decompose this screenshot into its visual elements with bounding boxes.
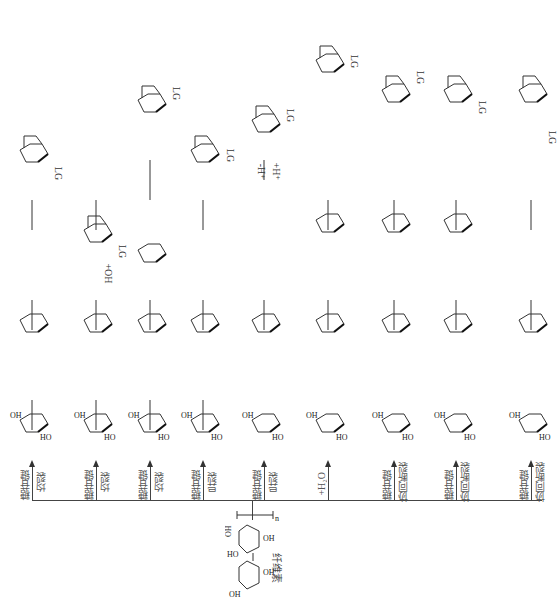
svg-text:HO: HO — [539, 433, 551, 442]
branch-2-step-label: +OH — [103, 263, 114, 283]
branch-2-arrow — [93, 460, 99, 467]
svg-text:OH: OH — [181, 411, 193, 420]
branch-4-arrow — [200, 460, 206, 467]
svg-text:OH: OH — [509, 411, 521, 420]
branch-4-label-top: 糖苷键 — [191, 470, 202, 500]
branch-2-line — [96, 466, 97, 500]
branch-4-product: LG — [225, 149, 236, 162]
svg-text:HO: HO — [336, 433, 348, 442]
branch-5-step-label-top: -H⁺ — [256, 164, 267, 180]
branch-9-label-top: 糖苷键 — [519, 470, 530, 500]
branch-7-product: LG — [415, 71, 426, 84]
svg-text:HO: HO — [464, 433, 476, 442]
branch-1-line — [32, 466, 33, 500]
branch-1-arrow — [29, 460, 35, 467]
branch-9-line — [531, 466, 532, 500]
branch-5-product: LG — [285, 109, 296, 122]
svg-text:OH: OH — [225, 525, 233, 537]
branch-7-label-top: 糖苷键 — [382, 470, 393, 500]
branch-3-arrow — [147, 460, 153, 467]
branch-5-label-bottom: 异裂 — [268, 472, 279, 492]
branch-8-label-top: 糖苷键 — [444, 470, 455, 500]
svg-text:n: n — [275, 514, 279, 523]
svg-text:HO: HO — [402, 433, 414, 442]
svg-text:OH: OH — [242, 411, 254, 420]
branch-2-product: LG — [117, 245, 128, 258]
svg-text:HO: HO — [272, 433, 284, 442]
branch-8-label-bottom: 协同断裂 — [460, 462, 471, 502]
reaction-scheme-molecules: OHHO OHHO OHHO OHHO OHHO OHHO OHHO OHHO … — [0, 0, 557, 460]
branch-6-arrow — [325, 460, 331, 467]
svg-text:HO: HO — [158, 433, 170, 442]
branch-5-step-label-bottom: +H⁺ — [271, 163, 282, 181]
svg-text:OH: OH — [10, 411, 22, 420]
svg-text:OH: OH — [263, 534, 275, 543]
branch-6-product: LG — [349, 55, 360, 68]
branch-8-arrow — [453, 460, 459, 467]
branch-3-product: LG — [171, 87, 182, 100]
branch-8-line — [456, 466, 457, 500]
branch-9-product: LG — [547, 131, 557, 144]
svg-text:HO: HO — [211, 433, 223, 442]
branch-7-line — [394, 466, 395, 500]
branch-3-label-top: 糖苷键 — [138, 470, 149, 500]
branch-5-label-top: 糖苷键 — [252, 470, 263, 500]
branch-1-product: LG — [53, 167, 64, 180]
svg-text:HO: HO — [227, 550, 239, 559]
svg-text:HO: HO — [104, 433, 116, 442]
branch-6-label: +H₂O — [316, 472, 327, 496]
svg-text:OH: OH — [306, 411, 318, 420]
branch-2-label-bottom: 均裂 — [100, 472, 111, 492]
branch-4-label-bottom: 异裂 — [207, 472, 218, 492]
svg-text:HO: HO — [40, 433, 52, 442]
branch-3-line — [150, 466, 151, 500]
svg-text:OH: OH — [372, 411, 384, 420]
branch-2-label-top: 糖苷键 — [84, 470, 95, 500]
branch-8-product: LG — [477, 101, 488, 114]
branch-1-label-top: 糖苷键 — [20, 470, 31, 500]
branch-9-arrow — [528, 460, 534, 467]
cellulose-label: 纤维素 — [270, 553, 285, 583]
branch-5-arrow — [261, 460, 267, 467]
branch-1-label-bottom: 均裂 — [36, 472, 47, 492]
branch-3-label-bottom: 均裂 — [154, 472, 165, 492]
svg-text:OH: OH — [128, 411, 140, 420]
svg-text:OH: OH — [434, 411, 446, 420]
branch-7-arrow — [391, 460, 397, 467]
branch-4-line — [203, 466, 204, 500]
branch-5-line — [264, 466, 265, 500]
branch-7-label-bottom: 协同断裂 — [398, 462, 409, 502]
branch-6-line — [328, 466, 329, 500]
branch-9-label-bottom: 协同断裂 — [535, 462, 546, 502]
svg-text:OH: OH — [74, 411, 86, 420]
svg-text:OH: OH — [229, 590, 241, 599]
